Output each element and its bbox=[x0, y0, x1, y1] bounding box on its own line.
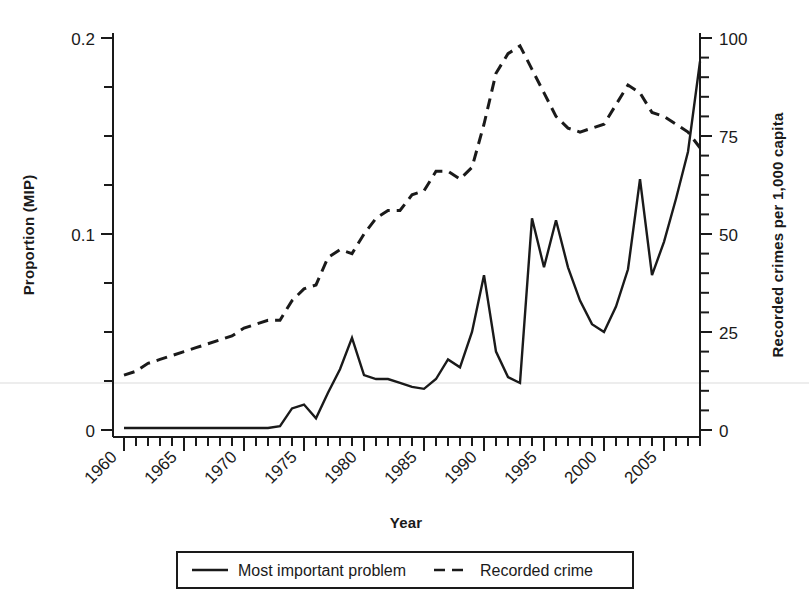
chart-figure: 0.2 0.1 0 100 75 50 25 0 196019651970197… bbox=[0, 0, 809, 612]
chart-legend: Most important problem Recorded crime bbox=[177, 552, 633, 588]
right-tick-label-25: 25 bbox=[719, 324, 738, 343]
right-tick-label-0: 0 bbox=[719, 422, 728, 441]
right-axis-title: Recorded crimes per 1,000 capita bbox=[769, 112, 786, 357]
legend-label-recorded-crime: Recorded crime bbox=[480, 562, 593, 579]
right-tick-label-100: 100 bbox=[719, 30, 747, 49]
left-axis-title: Proportion (MIP) bbox=[20, 175, 37, 296]
right-tick-label-75: 75 bbox=[719, 128, 738, 147]
line-chart-svg: 0.2 0.1 0 100 75 50 25 0 196019651970197… bbox=[0, 0, 809, 612]
left-tick-label-0.2: 0.2 bbox=[71, 30, 95, 49]
x-axis-title: Year bbox=[390, 514, 423, 531]
legend-label-most-important-problem: Most important problem bbox=[238, 562, 406, 579]
left-tick-label-0.1: 0.1 bbox=[71, 226, 95, 245]
left-tick-label-0: 0 bbox=[86, 422, 95, 441]
right-tick-label-50: 50 bbox=[719, 226, 738, 245]
